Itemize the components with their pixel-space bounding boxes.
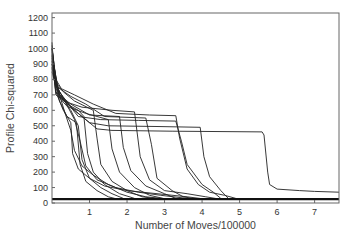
y-tick-label: 700: [33, 90, 48, 100]
y-tick-label: 400: [33, 136, 48, 146]
y-tick-label: 100: [33, 183, 48, 193]
y-tick-label: 900: [33, 59, 48, 69]
x-tick-label: 3: [162, 207, 167, 217]
y-tick-label: 1200: [28, 13, 48, 23]
x-tick-label: 2: [125, 207, 130, 217]
series-line: [52, 49, 228, 199]
x-tick-label: 1: [87, 207, 92, 217]
series-line: [52, 64, 135, 198]
series-line: [52, 72, 116, 199]
y-tick-label: 800: [33, 74, 48, 84]
series-line: [52, 69, 165, 199]
series-line: [52, 49, 236, 199]
y-tick-label: 300: [33, 152, 48, 162]
series-lines: [52, 42, 339, 198]
series-line: [52, 58, 202, 199]
x-axis-label: Number of Moves/100000: [135, 219, 256, 231]
y-tick-label: 600: [33, 105, 48, 115]
x-tick-label: 7: [312, 207, 317, 217]
y-tick-label: 200: [33, 167, 48, 177]
y-axis-label: Profile Chi-squared: [4, 63, 16, 153]
line-chart: 0100200300400500600700800900100011001200…: [0, 0, 352, 240]
y-tick-label: 0: [43, 198, 48, 208]
x-tick-label: 4: [200, 207, 205, 217]
x-tick-label: 6: [275, 207, 280, 217]
y-tick-label: 1100: [29, 28, 48, 38]
y-tick-label: 500: [33, 121, 48, 131]
series-line: [52, 67, 123, 198]
x-tick-label: 5: [237, 207, 242, 217]
series-line: [52, 42, 339, 192]
y-tick-label: 1000: [28, 44, 48, 54]
y-axis: 0100200300400500600700800900100011001200: [28, 13, 55, 208]
